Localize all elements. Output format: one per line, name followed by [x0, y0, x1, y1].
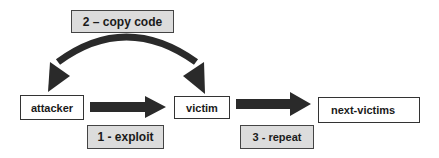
node-attacker: attacker [20, 95, 84, 120]
node-next-victims: next-victims [318, 97, 420, 123]
arrowhead-left-icon [48, 62, 70, 92]
arrowhead-right-icon [183, 62, 205, 94]
copy-code-curved-arrow [48, 37, 205, 94]
copy-code-label: 2 – copy code [71, 10, 174, 33]
arrows-layer [0, 0, 439, 158]
exploit-block-arrow [90, 96, 166, 118]
repeat-block-arrow [236, 92, 311, 116]
node-victim: victim [174, 96, 230, 119]
exploit-label: 1 - exploit [87, 125, 164, 149]
repeat-label: 3 - repeat [240, 125, 314, 149]
